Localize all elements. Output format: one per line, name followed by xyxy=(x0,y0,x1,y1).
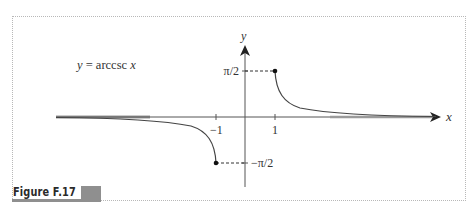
curve-right-branch xyxy=(275,71,436,117)
equation-label: y = arccsc x xyxy=(75,58,136,72)
endpoint-pi-over-2 xyxy=(273,69,278,74)
x-axis-label: x xyxy=(445,109,452,124)
figure-label: Figure F.17 xyxy=(13,184,76,199)
x-tick-label-neg1: −1 xyxy=(210,123,223,137)
arccsc-plot: x y −1 1 π/2 −π/2 y = arccsc x xyxy=(0,0,475,209)
y-axis-label: y xyxy=(240,29,247,43)
y-tick-label-neg-pi-over-2: −π/2 xyxy=(251,156,273,170)
figure-label-bar xyxy=(12,199,101,202)
x-tick-label-1: 1 xyxy=(272,123,278,137)
endpoint-neg-pi-over-2 xyxy=(214,161,219,166)
curve-left-branch xyxy=(56,118,216,164)
y-tick-label-pi-over-2: π/2 xyxy=(224,64,239,78)
